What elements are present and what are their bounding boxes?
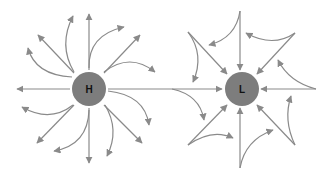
low-pressure-center: L xyxy=(225,72,259,106)
curve-arrow-icon xyxy=(66,16,74,72)
arrow-nw-icon xyxy=(257,105,295,145)
curve-arrow-icon xyxy=(89,27,124,68)
curve-arrow-icon xyxy=(104,62,155,72)
curve-arrow-icon xyxy=(240,130,273,168)
curve-arrow-icon xyxy=(188,134,233,145)
curve-arrow-icon xyxy=(278,60,316,89)
curve-arrow-icon xyxy=(172,89,204,120)
curve-arrow-icon xyxy=(54,110,89,151)
high-label: H xyxy=(85,84,92,95)
pressure-system-diagram: H L xyxy=(0,0,333,178)
curve-arrow-icon xyxy=(288,96,295,145)
curve-arrow-icon xyxy=(28,48,72,77)
arrow-ne-icon xyxy=(188,105,227,145)
curve-arrow-icon xyxy=(108,91,149,125)
arrow-sw-icon xyxy=(37,105,74,143)
low-label: L xyxy=(239,84,245,95)
curve-arrow-icon xyxy=(209,11,240,45)
high-pressure-center: H xyxy=(72,72,106,106)
curve-arrow-icon xyxy=(246,33,295,41)
arrow-ne-icon xyxy=(104,35,140,73)
curve-arrow-icon xyxy=(188,32,198,82)
arrow-nw-icon xyxy=(38,35,74,73)
arrow-se-icon xyxy=(188,32,227,74)
arrow-se-icon xyxy=(104,105,142,143)
